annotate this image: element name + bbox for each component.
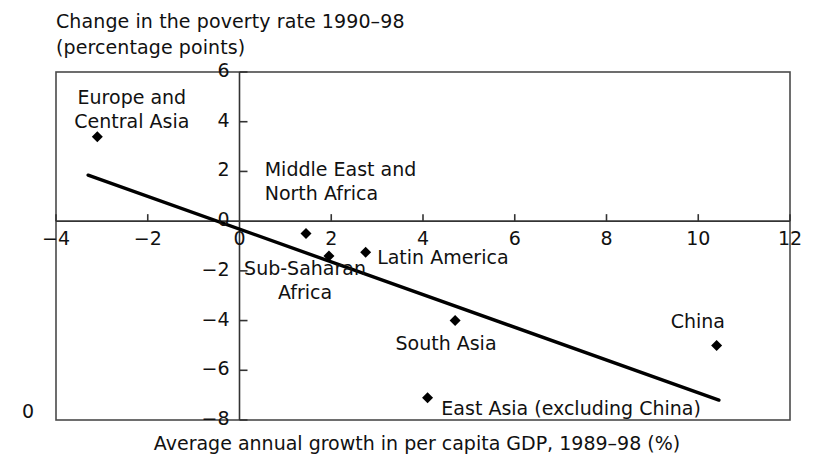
- x-tick-label: 6: [509, 227, 521, 249]
- point-label: Europe andCentral Asia: [74, 85, 189, 133]
- point-label: East Asia (excluding China): [441, 396, 701, 420]
- point-label-line2: North Africa: [265, 182, 378, 204]
- x-tick-label: 12: [778, 227, 802, 249]
- corner-zero-label: 0: [22, 400, 34, 422]
- x-tick-label: −4: [42, 227, 70, 249]
- point-label: Middle East andNorth Africa: [265, 157, 417, 205]
- point-label-line2: Central Asia: [74, 110, 189, 132]
- data-point-marker: [422, 392, 433, 403]
- point-label: South Asia: [395, 331, 496, 355]
- y-tick-label: −8: [201, 407, 229, 429]
- point-label-line1: Latin America: [377, 246, 508, 268]
- y-tick-label: −2: [201, 258, 229, 280]
- x-tick-label: 2: [325, 227, 337, 249]
- x-tick-label: −2: [134, 227, 162, 249]
- data-point-marker: [301, 228, 312, 239]
- data-point-marker: [711, 340, 722, 351]
- trend-line: [88, 175, 719, 400]
- point-label-line1: Middle East and: [265, 158, 417, 180]
- y-tick-label: −6: [201, 357, 229, 379]
- y-tick-label: 2: [217, 158, 229, 180]
- y-tick-label: 0: [217, 208, 229, 230]
- point-label: Sub-SaharanAfrica: [244, 256, 366, 304]
- x-tick-label: 8: [600, 227, 612, 249]
- y-tick-label: 4: [217, 109, 229, 131]
- point-label-line1: South Asia: [395, 332, 496, 354]
- point-label-line1: Europe and: [78, 86, 187, 108]
- point-label-line1: China: [671, 310, 725, 332]
- chart-page: Change in the poverty rate 1990–98(perce…: [0, 0, 834, 464]
- point-label: Latin America: [377, 245, 508, 269]
- data-point-marker: [450, 315, 461, 326]
- x-tick-label: 10: [686, 227, 710, 249]
- y-tick-label: 6: [217, 59, 229, 81]
- point-label: China: [671, 309, 725, 333]
- point-label-line2: Africa: [278, 281, 332, 303]
- x-tick-label: 0: [233, 227, 245, 249]
- point-label-line1: East Asia (excluding China): [441, 397, 701, 419]
- point-label-line1: Sub-Saharan: [244, 257, 366, 279]
- y-tick-label: −4: [201, 308, 229, 330]
- x-axis-title: Average annual growth in per capita GDP,…: [154, 432, 680, 454]
